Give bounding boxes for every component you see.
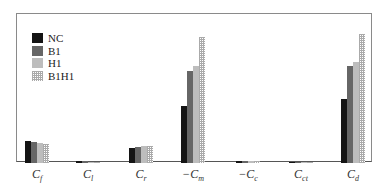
x-tick-label: Cd [347, 167, 359, 183]
x-tick-label: Cr [135, 167, 146, 183]
legend-label: B1H1 [48, 70, 74, 82]
legend-item-nc: NC [32, 32, 74, 45]
legend-label: NC [48, 32, 63, 44]
x-tick-label: Cl [83, 167, 93, 183]
bar-b1h1-0 [43, 144, 49, 163]
legend-label: H1 [48, 57, 61, 69]
bar-b1h1-4 [254, 161, 260, 163]
bar-b1h1-1 [94, 162, 100, 163]
x-tick-label: Cf [32, 167, 42, 183]
legend-label: B1 [48, 45, 61, 57]
legend: NC B1 H1 B1H1 [32, 32, 74, 82]
x-tick-label: Cct [294, 167, 308, 183]
x-tick-label: −Cm [182, 167, 204, 183]
x-tick-label: −Cc [238, 167, 258, 183]
legend-swatch [32, 33, 43, 43]
legend-swatch [32, 46, 43, 56]
legend-swatch [32, 71, 43, 81]
bar-b1h1-3 [199, 37, 205, 163]
legend-item-h1: H1 [32, 57, 74, 70]
legend-item-b1h1: B1H1 [32, 70, 74, 83]
bar-b1h1-5 [307, 162, 313, 163]
legend-swatch [32, 58, 43, 68]
legend-item-b1: B1 [32, 45, 74, 58]
bar-b1h1-2 [147, 146, 153, 163]
bar-b1h1-6 [359, 34, 365, 163]
